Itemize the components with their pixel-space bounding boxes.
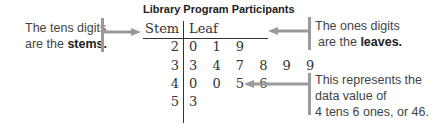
value-callout-line2: data value of — [315, 88, 429, 104]
stems-callout-line2: are the stems. — [25, 36, 107, 52]
row-stem: 3 — [149, 58, 179, 73]
row-stem: 4 — [149, 76, 179, 91]
leaves-callout-bold: leaves. — [360, 35, 402, 49]
value-bracket — [308, 73, 311, 115]
stems-arrow-icon — [103, 27, 143, 37]
row-stem: 5 — [149, 94, 179, 109]
value-arrow-icon — [244, 79, 310, 89]
leaves-arrow-icon — [268, 26, 310, 36]
row-leaves: 3 — [189, 94, 203, 109]
leaves-callout: The ones digits are the leaves. — [315, 18, 402, 50]
row-stem: 2 — [149, 39, 179, 54]
leaves-callout-line2: are the leaves. — [315, 34, 402, 50]
stems-callout: The tens digits are the stems. — [25, 20, 107, 52]
stems-callout-prefix: are the — [25, 37, 67, 51]
value-callout: This represents the data value of 4 tens… — [315, 72, 429, 120]
stem-header: Stem — [145, 21, 179, 36]
chart-title: Library Program Participants — [143, 3, 295, 15]
value-callout-line3: 4 tens 6 ones, or 46. — [315, 104, 429, 120]
leaves-callout-line1: The ones digits — [315, 18, 402, 34]
leaves-bracket — [308, 17, 311, 50]
leaf-header: Leaf — [189, 21, 218, 36]
leaves-callout-prefix: are the — [318, 35, 360, 49]
row-leaves: 3 4 7 8 9 9 — [189, 58, 320, 73]
row-leaves: 0 1 9 — [189, 39, 250, 54]
stems-callout-line1: The tens digits — [25, 20, 107, 36]
value-callout-line1: This represents the — [315, 72, 429, 88]
stem-leaf-divider — [183, 21, 184, 123]
